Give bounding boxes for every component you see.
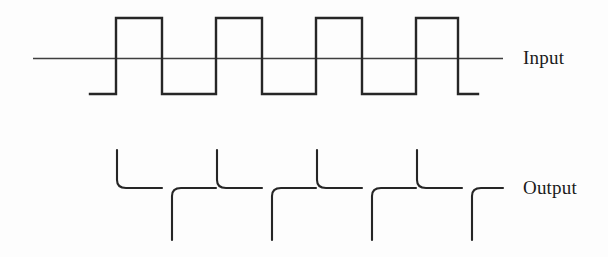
input-square-wave-trace [90,18,478,94]
output-positive-spike-3 [372,188,416,240]
output-positive-spike-4 [472,188,503,240]
output-positive-spike-1 [172,188,216,240]
output-negative-spike-1 [117,150,162,188]
output-positive-spike-2 [272,188,316,240]
output-positive-spikes [172,188,503,240]
output-negative-spike-4 [417,150,462,188]
output-negative-spike-2 [217,150,262,188]
output-negative-spikes [117,150,462,188]
output-negative-spike-3 [317,150,362,188]
input-label: Input [523,48,564,67]
waveform-canvas [0,0,608,257]
output-label: Output [523,178,577,197]
waveform-figure: Input Output [0,0,608,257]
